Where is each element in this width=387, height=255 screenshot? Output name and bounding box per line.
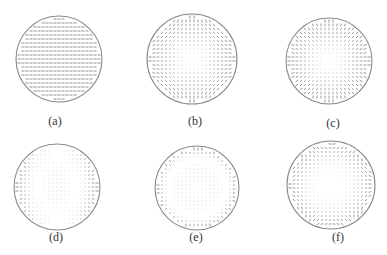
aperture-circle [287,141,375,229]
arrow-field [288,144,371,225]
panel-label-f: (f) [332,231,344,243]
quiver-plot-f [0,0,387,255]
